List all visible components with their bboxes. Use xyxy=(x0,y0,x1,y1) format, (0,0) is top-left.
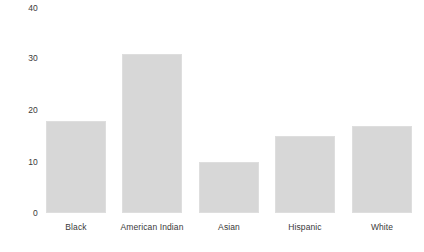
y-tick-label: 10 xyxy=(0,158,38,167)
bar[interactable] xyxy=(199,162,259,213)
bar-group: Hispanic xyxy=(275,0,335,252)
y-tick-label: 30 xyxy=(0,54,38,63)
y-tick-label: 0 xyxy=(0,209,38,218)
y-axis: 40 30 20 10 0 xyxy=(0,0,38,252)
bar-group: Asian xyxy=(199,0,259,252)
bar[interactable] xyxy=(352,126,412,213)
x-tick-label: Asian xyxy=(187,222,271,232)
y-tick-label: 20 xyxy=(0,106,38,115)
bar-chart: 40 30 20 10 0 Black American Indian Asia… xyxy=(0,0,424,252)
plot-area: Black American Indian Asian Hispanic Whi… xyxy=(46,0,424,252)
x-tick-label: Hispanic xyxy=(263,222,347,232)
bar-group: White xyxy=(352,0,412,252)
x-tick-label: Black xyxy=(34,222,118,232)
bar-group: American Indian xyxy=(122,0,182,252)
bar[interactable] xyxy=(275,136,335,213)
bar[interactable] xyxy=(46,121,106,213)
x-tick-label: White xyxy=(340,222,424,232)
bar-group: Black xyxy=(46,0,106,252)
bar[interactable] xyxy=(122,54,182,213)
x-tick-label: American Indian xyxy=(110,222,194,232)
y-tick-label: 40 xyxy=(0,4,38,13)
